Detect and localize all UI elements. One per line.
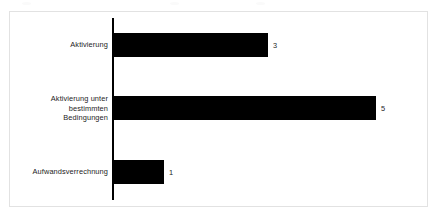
bar-rect: [113, 160, 164, 184]
bar-label-container: Aktivierung: [4, 33, 108, 57]
category-label: Aktivierung: [4, 40, 108, 50]
bar-label-container: Aktivierung unter bestimmten Bedingungen: [4, 96, 108, 120]
category-label: Aufwandsverrechnung: [4, 167, 108, 177]
bar-row: Aufwandsverrechnung 1: [0, 160, 441, 184]
bar-value-label: 5: [381, 104, 385, 113]
category-label: Aktivierung unter bestimmten Bedingungen: [4, 94, 108, 123]
bars-layer: Aktivierung 3 Aktivierung unter bestimmt…: [0, 0, 441, 218]
bar-value-label: 3: [273, 41, 277, 50]
bar-label-container: Aufwandsverrechnung: [4, 160, 108, 184]
bar-chart-figure: Aktivierung 3 Aktivierung unter bestimmt…: [0, 0, 441, 218]
bar-row: Aktivierung 3: [0, 33, 441, 57]
bar-rect: [113, 33, 268, 57]
bar-row: Aktivierung unter bestimmten Bedingungen…: [0, 96, 441, 120]
bar-value-label: 1: [169, 168, 173, 177]
bar-rect: [113, 96, 376, 120]
